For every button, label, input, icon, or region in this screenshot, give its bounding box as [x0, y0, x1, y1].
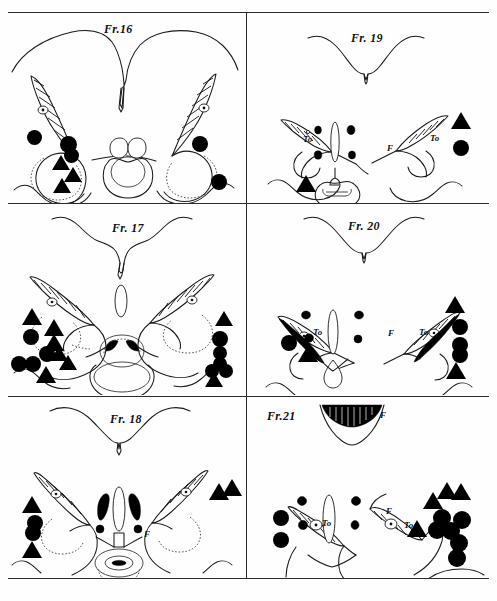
marker-circle: [192, 136, 208, 152]
marker-triangle: [296, 175, 316, 192]
marker-triangle: [22, 541, 42, 558]
grid-line-bottom: [8, 578, 489, 579]
structure-label-f: F: [388, 328, 394, 338]
marker-circle: [273, 510, 289, 526]
marker-circle: [453, 511, 471, 529]
marker-circle: [452, 347, 468, 363]
marker-triangle: [222, 479, 242, 496]
structure-label-to: To: [430, 133, 439, 143]
marker-triangle: [22, 496, 42, 513]
structure-label-to: To: [303, 134, 312, 144]
marker-circle: [212, 331, 228, 347]
marker-triangle: [451, 483, 471, 500]
panel-fr16: Fr.16: [0, 12, 246, 203]
structure-label-f: F: [386, 506, 392, 516]
structure-label-f: F: [144, 529, 150, 539]
marker-triangle: [205, 372, 223, 387]
marker-circle: [27, 130, 42, 145]
marker-triangle: [446, 362, 466, 379]
marker-triangle: [22, 308, 42, 325]
panel-fr19: Fr. 19: [248, 12, 497, 203]
marker-circle: [23, 329, 39, 345]
structure-label-to: To: [404, 520, 413, 530]
structure-label-f: F: [387, 143, 393, 153]
marker-triangle: [53, 178, 71, 193]
structure-label-to: To: [322, 518, 331, 528]
fr19-drawing: [248, 12, 497, 203]
marker-triangle: [445, 296, 465, 313]
marker-triangle: [59, 355, 77, 370]
marker-circle: [211, 174, 227, 190]
structure-label-to: To: [313, 327, 322, 337]
marker-circle: [452, 319, 468, 335]
marker-circle: [273, 532, 289, 548]
marker-circle: [448, 549, 466, 567]
marker-triangle: [215, 311, 233, 326]
structure-label-f: F: [380, 410, 386, 420]
marker-triangle: [36, 366, 56, 383]
marker-triangle: [298, 345, 318, 362]
fr16-drawing: [0, 12, 246, 203]
structure-label-to: To: [419, 327, 428, 337]
marker-circle: [281, 335, 297, 351]
marker-triangle: [451, 112, 471, 129]
marker-circle: [453, 140, 469, 156]
brain-section-figure: Fr.16: [0, 0, 497, 601]
marker-circle: [25, 525, 41, 541]
